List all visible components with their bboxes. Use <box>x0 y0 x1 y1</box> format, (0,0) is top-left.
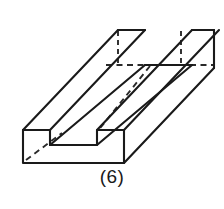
figure-caption: (6) <box>0 164 224 190</box>
solid-faces <box>23 65 219 163</box>
figure-container: (6) <box>0 0 224 209</box>
